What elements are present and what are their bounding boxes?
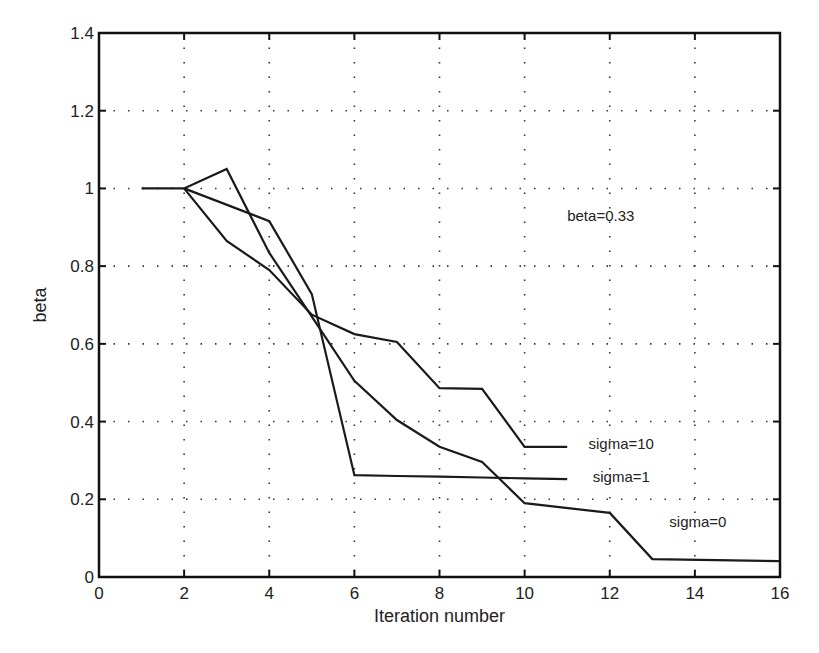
grid [99,33,780,577]
series-line-sigma-1 [184,188,567,479]
y-tick-labels: 00.20.40.60.811.21.4 [70,24,94,587]
x-tick-label: 10 [515,584,534,603]
annotation-label: sigma=1 [593,468,650,485]
x-tick-label: 0 [94,584,103,603]
x-tick-label: 2 [179,584,188,603]
y-axis-label: beta [30,287,50,323]
y-tick-label: 0 [85,568,94,587]
annotations: beta=0.33sigma=10sigma=1sigma=0 [567,207,726,530]
series-group [142,169,780,561]
series-line-sigma-10 [184,188,567,446]
x-tick-label: 16 [771,584,790,603]
x-tick-label: 6 [350,584,359,603]
x-axis-label: Iteration number [374,606,505,626]
ticks [99,33,780,577]
y-tick-label: 0.6 [70,335,94,354]
x-tick-label: 14 [685,584,704,603]
annotation-label: sigma=0 [669,513,726,530]
line-chart: 0246810121416 00.20.40.60.811.21.4 beta=… [0,0,819,653]
y-tick-label: 1.2 [70,102,94,121]
series-line-sigma-0 [142,169,780,561]
plot-frame [99,33,780,577]
y-tick-label: 0.8 [70,257,94,276]
x-tick-label: 8 [435,584,444,603]
x-tick-label: 4 [265,584,274,603]
y-tick-label: 1.4 [70,24,94,43]
y-tick-label: 1 [85,179,94,198]
annotation-label: beta=0.33 [567,207,634,224]
x-tick-labels: 0246810121416 [94,584,789,603]
y-tick-label: 0.4 [70,413,94,432]
x-tick-label: 12 [600,584,619,603]
annotation-label: sigma=10 [588,435,653,452]
y-tick-label: 0.2 [70,490,94,509]
